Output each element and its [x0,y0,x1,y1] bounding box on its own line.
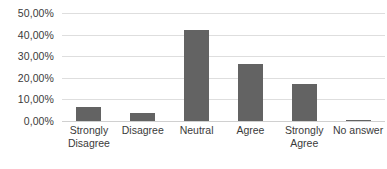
bar-slot [331,13,385,121]
y-axis-tick-label: 20,00% [18,72,54,84]
bar[interactable] [130,113,155,121]
bar-slot [223,13,277,121]
plot-area [62,13,385,121]
bar[interactable] [76,107,101,121]
bar[interactable] [292,84,317,121]
x-axis-category-label: Strongly Agree [277,124,331,169]
bar-chart: 50,00% 40,00% 30,00% 20,00% 10,00% 0,00%… [0,0,387,169]
bar-group [62,13,385,121]
x-axis-category-label: Strongly Disagree [62,124,116,169]
x-axis-category-label: Disagree [116,124,170,169]
axis-baseline [62,121,385,122]
bar[interactable] [238,64,263,121]
bar[interactable] [184,30,209,121]
bar-slot [62,13,116,121]
x-axis-category-label: Neutral [170,124,224,169]
x-axis: Strongly Disagree Disagree Neutral Agree… [62,124,385,169]
y-axis-tick-label: 30,00% [18,50,54,62]
y-axis-tick-label: 40,00% [18,29,54,41]
x-axis-category-label: No answer [331,124,385,169]
x-axis-category-label: Agree [223,124,277,169]
bar-slot [170,13,224,121]
y-axis-tick-label: 0,00% [24,115,54,127]
y-axis: 50,00% 40,00% 30,00% 20,00% 10,00% 0,00% [0,0,62,169]
bar-slot [116,13,170,121]
y-axis-tick-label: 10,00% [18,93,54,105]
bar[interactable] [346,120,371,121]
bar-slot [277,13,331,121]
y-axis-tick-label: 50,00% [18,7,54,19]
